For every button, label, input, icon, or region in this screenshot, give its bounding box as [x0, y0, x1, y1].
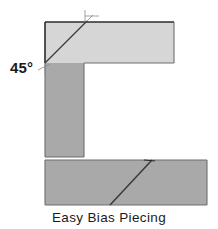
joined-bias-strip: [45, 160, 207, 205]
vertical-bias-strip: [45, 63, 84, 157]
figure-caption: Easy Bias Piecing: [0, 210, 218, 226]
bias-piecing-diagram: [0, 0, 218, 229]
angle-label-45-degrees: 45°: [10, 60, 33, 75]
bias-piecing-figure: 45° Easy Bias Piecing: [0, 0, 218, 229]
horizontal-bias-strip: [45, 22, 174, 63]
